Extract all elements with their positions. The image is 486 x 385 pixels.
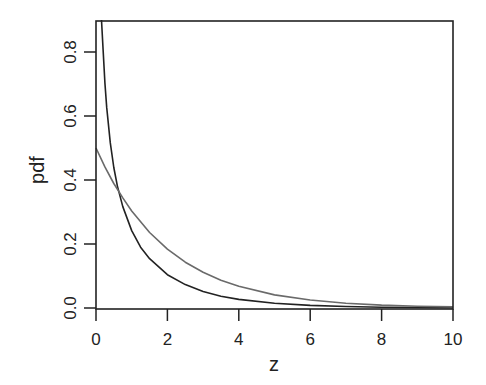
y-tick-label: 0.8 bbox=[61, 40, 80, 64]
x-tick-label: 8 bbox=[377, 330, 386, 349]
y-axis-label: pdf bbox=[26, 156, 48, 184]
y-tick-label: 0.6 bbox=[61, 104, 80, 128]
x-axis: 0246810 bbox=[91, 309, 462, 349]
plot-frame bbox=[96, 21, 453, 309]
x-axis-label: z bbox=[269, 353, 279, 375]
x-tick-label: 2 bbox=[163, 330, 172, 349]
y-tick-label: 0.2 bbox=[61, 232, 80, 256]
pdf-chart: 0246810 0.00.20.40.60.8 z pdf bbox=[0, 0, 486, 385]
x-tick-label: 6 bbox=[305, 330, 314, 349]
x-tick-label: 4 bbox=[234, 330, 243, 349]
x-tick-label: 0 bbox=[91, 330, 100, 349]
series-line-1 bbox=[102, 20, 454, 308]
x-tick-label: 10 bbox=[444, 330, 463, 349]
y-tick-label: 0.0 bbox=[61, 296, 80, 320]
y-tick-label: 0.4 bbox=[61, 168, 80, 192]
y-axis: 0.00.20.40.60.8 bbox=[61, 40, 96, 320]
curves bbox=[96, 20, 453, 308]
series-line-2 bbox=[96, 148, 453, 307]
